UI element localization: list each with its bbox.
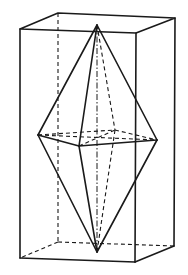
mid-edge-left-front [38, 135, 79, 146]
box-edge-bottom-left-hidden [20, 242, 58, 258]
lower-edge-front [79, 146, 97, 252]
mid-edge-left-back [38, 130, 115, 135]
lower-edge-left [38, 135, 97, 252]
box-edge-bottom-back-hidden [58, 242, 174, 246]
upper-edge-right [97, 25, 157, 140]
box-edge-front-right [135, 33, 136, 262]
box-edge-bottom-front [20, 258, 135, 262]
octahedron-in-box-diagram [0, 0, 188, 275]
lower-edge-right [97, 140, 157, 252]
box-edge-bottom-right [135, 246, 174, 262]
mid-edge-front-right [79, 140, 157, 146]
box-edge-back-right [174, 18, 175, 246]
